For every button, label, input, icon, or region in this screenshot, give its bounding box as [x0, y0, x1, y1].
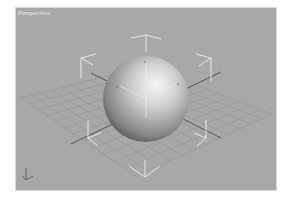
svg-text:z: z	[144, 59, 146, 64]
svg-text:x: x	[116, 84, 118, 89]
world-axis-icon	[22, 168, 33, 180]
svg-text:y: y	[177, 81, 179, 86]
scene-canvas: z x y	[16, 8, 277, 191]
perspective-viewport[interactable]: Perspective	[15, 7, 277, 191]
